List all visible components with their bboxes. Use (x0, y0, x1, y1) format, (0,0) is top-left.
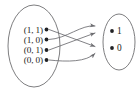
diagram-canvas: (1, 1) (1, 0) (0, 1) (0, 0) 1 0 (0, 0, 138, 92)
codomain-label-1: 1 (117, 26, 122, 36)
domain-dot-2 (45, 48, 49, 52)
codomain-dot-0 (110, 46, 114, 50)
domain-label-3: (0, 0) (24, 55, 43, 65)
edge-10-to-1 (49, 26, 95, 40)
mapping-diagram: (1, 1) (1, 0) (0, 1) (0, 0) 1 0 (0, 0, 138, 92)
domain-dot-3 (45, 58, 49, 62)
edge-00-to-0 (49, 54, 95, 62)
domain-label-1: (1, 0) (24, 35, 43, 45)
domain-label-0: (1, 1) (24, 25, 43, 35)
codomain-label-0: 0 (117, 43, 122, 53)
domain-dot-1 (45, 38, 49, 42)
domain-label-2: (0, 1) (24, 45, 43, 55)
codomain-set-ellipse (103, 14, 135, 70)
domain-dot-0 (45, 28, 49, 32)
edge-01-to-1 (49, 33, 95, 50)
codomain-dot-1 (110, 29, 114, 33)
